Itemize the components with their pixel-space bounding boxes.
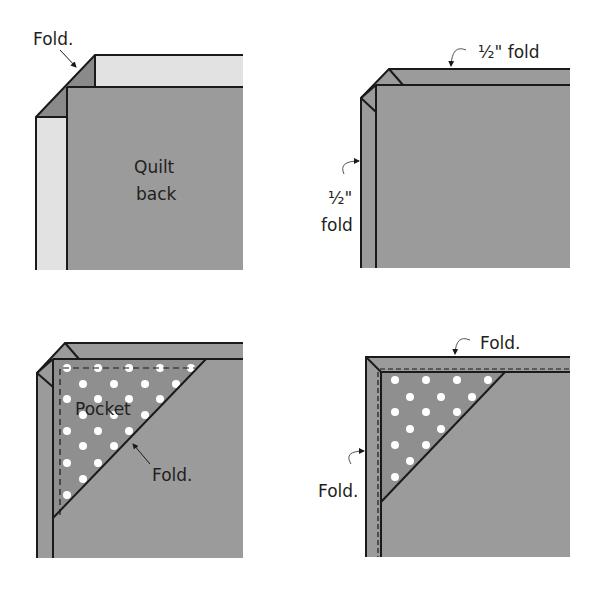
- label-side-fold: Fold.: [318, 481, 359, 501]
- quilt-corner-diagram: Fold. Quilt back ½" fold ½" fold: [0, 0, 596, 591]
- panel-step-4: Fold. Fold.: [318, 333, 570, 557]
- label-top-fold: Fold.: [480, 333, 521, 353]
- top-fold-arrow-icon: [451, 49, 466, 66]
- label-pocket: Pocket: [75, 399, 131, 419]
- label-fold: Fold.: [33, 29, 74, 49]
- folded-fabric: [361, 69, 570, 268]
- panel-step-2: ½" fold ½" fold: [321, 42, 570, 268]
- light-top-strip: [95, 55, 243, 87]
- side-fold-arrow-icon: [343, 161, 359, 174]
- top-fold-arrow-icon: [455, 339, 470, 354]
- side-fold-arrow-icon: [349, 451, 364, 464]
- panel-step-3: Pocket Fold.: [37, 343, 243, 558]
- label-side-fold-1: ½": [328, 188, 352, 208]
- light-left-strip: [36, 117, 67, 270]
- label-side-fold-2: fold: [321, 215, 353, 235]
- panel-step-1: Fold. Quilt back: [33, 29, 243, 270]
- label-quilt-back-1: Quilt: [134, 157, 175, 177]
- label-top-fold: ½" fold: [478, 42, 540, 62]
- label-fold: Fold.: [152, 465, 193, 485]
- fold-arrow-icon: [60, 50, 76, 67]
- quilt-back-fabric: [67, 87, 243, 270]
- label-quilt-back-2: back: [136, 184, 177, 204]
